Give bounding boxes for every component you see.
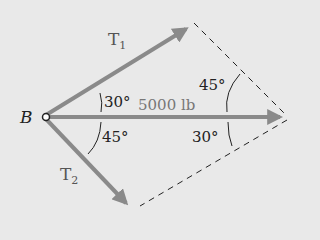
t1-label: T1 <box>108 29 126 52</box>
angle-t1-b: 30° <box>104 93 131 111</box>
point-b-label: B <box>20 107 33 127</box>
resultant-label: 5000 lb <box>138 96 195 114</box>
angle-t2-b: 45° <box>102 128 129 146</box>
angle-upper-right: 45° <box>199 76 226 94</box>
point-b <box>43 114 50 121</box>
dashed-parallelogram <box>140 23 287 206</box>
t2-label: T2 <box>60 164 78 187</box>
angle-lower-right: 30° <box>192 128 219 146</box>
